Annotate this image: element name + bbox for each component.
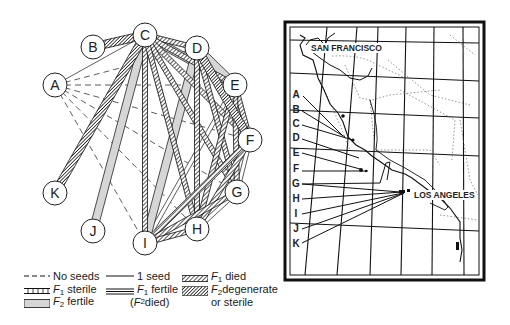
svg-text:I: I	[143, 235, 147, 251]
site-label: G	[292, 178, 300, 189]
node-H: H	[185, 217, 209, 241]
site-label: A	[292, 89, 299, 100]
node-C: C	[133, 23, 157, 47]
solid-line-icon	[106, 272, 134, 280]
california-map: SAN FRANCISCOLOS ANGELESABCDEFGHIJK	[285, 22, 484, 280]
site-label: B	[292, 104, 299, 115]
node-I: I	[133, 231, 157, 255]
node-B: B	[81, 35, 105, 59]
node-J: J	[81, 219, 105, 243]
svg-text:J: J	[90, 223, 97, 239]
svg-text:H: H	[192, 221, 202, 237]
legend-f2-died-note: (F2 died)	[130, 296, 169, 308]
svg-text:K: K	[50, 185, 60, 201]
svg-text:G: G	[232, 184, 243, 200]
edge-D-H	[195, 48, 200, 229]
svg-text:E: E	[230, 77, 239, 93]
edge-C-I	[143, 35, 148, 243]
double-line-icon	[106, 287, 134, 295]
legend-one-seed: 1 seed	[106, 270, 170, 282]
legend-or-sterile: or sterile	[211, 296, 253, 308]
node-F: F	[238, 128, 262, 152]
crossing-edges	[52, 31, 254, 245]
site-label: D	[292, 132, 299, 143]
gray-band-icon	[24, 299, 50, 308]
site-label: I	[295, 208, 298, 219]
svg-text:A: A	[50, 77, 60, 93]
fine-hatch-band-icon	[182, 275, 208, 282]
site-label: K	[292, 238, 300, 249]
site-label: E	[293, 147, 300, 158]
city-label: LOS ANGELES	[414, 190, 475, 200]
node-K: K	[43, 181, 67, 205]
svg-text:F: F	[246, 132, 255, 148]
legend: No seeds F1 sterile F2 fertile 1 seed F1…	[24, 270, 274, 320]
legend-no-seeds: No seeds	[24, 270, 99, 282]
dense-hatch-band-icon	[182, 286, 208, 296]
node-G: G	[225, 180, 249, 204]
site-label: H	[292, 193, 299, 204]
svg-text:D: D	[192, 40, 202, 56]
svg-text:B: B	[88, 39, 97, 55]
dashed-line-icon	[24, 272, 50, 280]
svg-text:C: C	[140, 27, 150, 43]
node-E: E	[223, 73, 247, 97]
legend-f2-fertile: F2 fertile	[24, 295, 94, 311]
site-label: J	[293, 223, 299, 234]
site-label: C	[292, 118, 299, 129]
city-label: SAN FRANCISCO	[311, 43, 382, 53]
double-line-ticks-icon	[24, 287, 50, 295]
node-A: A	[43, 73, 67, 97]
node-D: D	[185, 36, 209, 60]
edge-C-J	[89, 34, 149, 232]
site-label: F	[293, 163, 299, 174]
